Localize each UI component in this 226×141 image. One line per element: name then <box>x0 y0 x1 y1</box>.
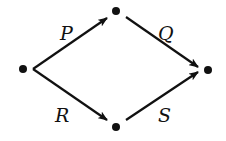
label-r: R <box>54 104 69 126</box>
label-s: S <box>158 104 171 126</box>
node-start <box>19 65 27 73</box>
node-end <box>204 66 212 74</box>
label-p: P <box>59 22 74 44</box>
edge-r <box>33 69 107 120</box>
diagram-canvas: P Q R S <box>0 0 226 141</box>
node-top <box>112 7 120 15</box>
label-q: Q <box>158 22 174 44</box>
node-bottom <box>112 123 120 131</box>
